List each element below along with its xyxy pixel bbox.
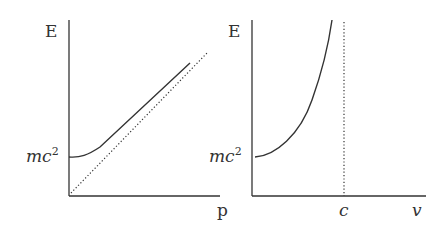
intercept-label-right: mc2 xyxy=(209,145,242,166)
panel-energy-momentum: E mc2 p xyxy=(26,20,228,220)
asymptote-label-c: c xyxy=(339,200,349,220)
intercept-label-left: mc2 xyxy=(26,145,59,166)
y-axis-label-right: E xyxy=(228,21,240,41)
panel-energy-velocity: E mc2 c v xyxy=(209,20,426,220)
x-axis-label-left: p xyxy=(217,200,228,220)
x-axis-label-right: v xyxy=(412,200,422,220)
relativistic-energy-diagram: E mc2 p E mc2 c v xyxy=(0,0,439,230)
energy-velocity-curve xyxy=(255,20,332,157)
asymptote-pc-dotted xyxy=(71,52,208,193)
energy-momentum-curve xyxy=(69,63,190,157)
y-axis-label-left: E xyxy=(45,21,57,41)
